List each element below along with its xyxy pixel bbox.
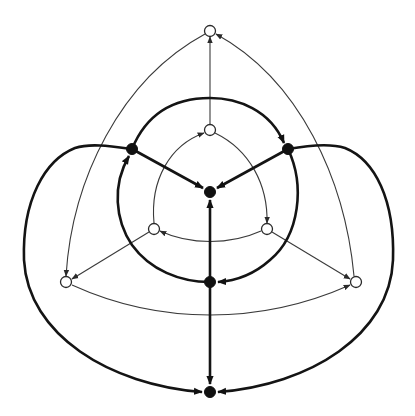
directed-graph-diagram <box>0 0 415 416</box>
node-white-inner-left <box>149 224 160 235</box>
edge-black-right-to-lower-arc <box>218 149 298 282</box>
node-white-outer-left <box>61 277 72 288</box>
node-black-center <box>205 187 216 198</box>
thick-edges <box>24 98 393 392</box>
edge-inner-right-to-outer-right <box>272 232 350 279</box>
edge-black-left-to-right-arc <box>132 98 284 149</box>
edge-black-left-to-center <box>132 149 203 188</box>
edge-inner-left-to-outer-left <box>72 232 149 279</box>
node-white-outer-top <box>205 26 216 37</box>
node-white-inner-top <box>205 125 216 136</box>
edge-black-right-to-bottom-loop <box>218 145 393 392</box>
node-white-inner-right <box>262 224 273 235</box>
edge-black-lower-to-left-arc <box>118 156 210 282</box>
edge-black-left-to-bottom-loop <box>24 145 202 392</box>
node-black-lower <box>205 277 216 288</box>
edge-inner-left-to-inner-top <box>153 133 204 223</box>
node-black-right <box>283 144 294 155</box>
node-black-left <box>127 144 138 155</box>
node-white-outer-right <box>351 277 362 288</box>
edge-inner-top-to-inner-right <box>215 133 267 223</box>
node-black-bottom <box>205 387 216 398</box>
edge-black-right-to-center <box>217 149 288 188</box>
